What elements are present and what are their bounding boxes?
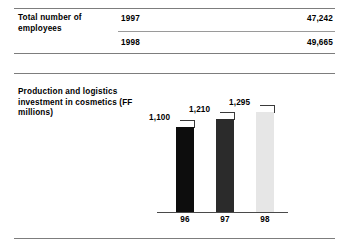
table-top-rule	[14, 8, 335, 9]
page-bottom-rule	[14, 238, 335, 239]
table-row-divider	[118, 31, 335, 32]
bar-96	[176, 127, 194, 212]
bar-98	[256, 112, 274, 212]
leader-line-98	[260, 105, 275, 113]
investment-chart-section: Production and logistics investment in c…	[0, 73, 349, 251]
table-row-value-1998: 49,665	[307, 38, 333, 47]
bar-97	[216, 119, 234, 212]
table-bottom-rule	[14, 53, 335, 54]
leader-line-97	[220, 112, 235, 120]
table-row-year-1997: 1997	[121, 14, 140, 23]
x-tick-98: 98	[255, 215, 275, 224]
table-row-value-1997: 47,242	[307, 14, 333, 23]
employees-table: Total number of employees 1997 47,242 19…	[0, 0, 349, 56]
bar-label-98: 1,295	[229, 98, 250, 107]
employees-row-label: Total number of employees	[18, 13, 114, 34]
bar-label-96: 1,100	[149, 113, 170, 122]
x-tick-97: 97	[215, 215, 235, 224]
x-tick-96: 96	[175, 215, 195, 224]
chart-baseline-axis	[157, 212, 288, 213]
leader-line-96	[180, 120, 195, 128]
bar-chart-plot: 1,100 1,210 1,295 96 97 98	[0, 73, 349, 251]
table-row-year-1998: 1998	[121, 38, 140, 47]
figures-page: Total number of employees 1997 47,242 19…	[0, 0, 349, 251]
bar-label-97: 1,210	[189, 105, 210, 114]
